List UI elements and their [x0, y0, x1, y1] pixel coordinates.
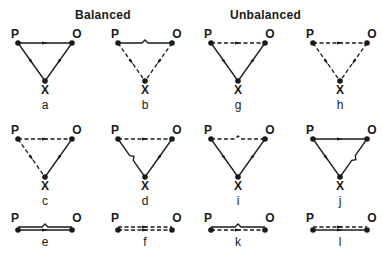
panel-label-f: f: [143, 235, 147, 249]
panel-g: POXg: [204, 27, 275, 112]
panel-b: POXb: [111, 27, 182, 112]
node-label-p: P: [11, 211, 19, 225]
node-label-o: O: [367, 123, 376, 137]
node-label-p: P: [306, 27, 314, 41]
panel-e: POe: [11, 211, 82, 249]
node-label-x: X: [41, 83, 49, 97]
node-label-x: X: [336, 179, 344, 193]
node-p: [115, 227, 121, 233]
node-label-p: P: [111, 27, 119, 41]
panel-l: POl: [306, 211, 377, 249]
node-label-x: X: [234, 179, 242, 193]
node-p: [310, 136, 316, 142]
node-label-x: X: [41, 179, 49, 193]
node-label-o: O: [265, 123, 274, 137]
panel-a: POXa: [11, 27, 82, 112]
edge-p-o: [211, 136, 265, 139]
node-label-o: O: [265, 211, 274, 225]
balance-diagram: POXaPOXbPOXgPOXhPOXcPOXdPOXiPOXjPOePOfPO…: [0, 0, 383, 258]
arrow-mark-icon: [142, 138, 148, 141]
node-label-p: P: [204, 211, 212, 225]
node-label-o: O: [265, 27, 274, 41]
arrow-mark-icon: [142, 226, 148, 229]
arrow-mark-icon: [235, 42, 241, 45]
node-o: [364, 40, 370, 46]
panel-label-k: k: [235, 235, 242, 249]
node-label-o: O: [367, 211, 376, 225]
node-label-p: P: [111, 123, 119, 137]
node-label-o: O: [367, 27, 376, 41]
node-label-p: P: [204, 27, 212, 41]
edge-upper: [18, 224, 72, 227]
node-label-o: O: [72, 27, 81, 41]
panel-i: POXi: [204, 123, 275, 208]
node-label-p: P: [11, 123, 19, 137]
node-p: [15, 227, 21, 233]
arrow-mark-icon: [337, 229, 343, 232]
node-o: [262, 227, 268, 233]
panel-label-j: j: [338, 194, 342, 208]
panel-label-e: e: [42, 235, 49, 249]
node-p: [208, 227, 214, 233]
panel-label-b: b: [142, 98, 149, 112]
node-p: [310, 40, 316, 46]
panel-k: POk: [204, 211, 275, 249]
node-p: [115, 136, 121, 142]
panel-f: POf: [111, 211, 182, 249]
node-o: [169, 136, 175, 142]
edge-p-o: [118, 40, 172, 43]
node-p: [208, 136, 214, 142]
arrow-mark-icon: [337, 138, 343, 141]
node-p: [115, 40, 121, 46]
panel-c: POXc: [11, 123, 82, 208]
node-label-o: O: [72, 123, 81, 137]
node-label-p: P: [204, 123, 212, 137]
node-o: [169, 227, 175, 233]
node-label-o: O: [172, 27, 181, 41]
node-label-p: P: [111, 211, 119, 225]
node-o: [364, 227, 370, 233]
panel-label-i: i: [237, 194, 240, 208]
node-o: [262, 136, 268, 142]
node-label-p: P: [11, 27, 19, 41]
node-label-x: X: [234, 83, 242, 97]
arrow-mark-icon: [337, 226, 343, 229]
node-p: [15, 136, 21, 142]
node-o: [364, 136, 370, 142]
node-label-o: O: [72, 211, 81, 225]
node-o: [169, 40, 175, 46]
node-label-o: O: [172, 211, 181, 225]
panel-h: POXh: [306, 27, 377, 112]
node-label-x: X: [336, 83, 344, 97]
edge-upper: [211, 224, 265, 227]
node-label-p: P: [306, 123, 314, 137]
panel-j: POXj: [306, 123, 377, 208]
node-label-o: O: [172, 123, 181, 137]
edge-o-x: [340, 139, 367, 177]
node-p: [15, 40, 21, 46]
node-label-x: X: [141, 179, 149, 193]
panel-label-c: c: [42, 194, 48, 208]
arrow-mark-icon: [42, 138, 48, 141]
node-label-p: P: [306, 211, 314, 225]
panel-label-l: l: [339, 235, 342, 249]
node-o: [69, 227, 75, 233]
arrow-mark-icon: [337, 42, 343, 45]
edge-p-x: [118, 139, 145, 177]
arrow-mark-icon: [42, 42, 48, 45]
node-p: [310, 227, 316, 233]
arrow-mark-icon: [142, 229, 148, 232]
panel-label-h: h: [337, 98, 344, 112]
arrow-mark-icon: [42, 229, 48, 232]
panel-label-d: d: [142, 194, 149, 208]
node-p: [208, 40, 214, 46]
panel-label-g: g: [235, 98, 242, 112]
panel-d: POXd: [111, 123, 182, 208]
node-o: [69, 40, 75, 46]
arrow-mark-icon: [235, 229, 241, 232]
panel-label-a: a: [42, 98, 49, 112]
node-o: [262, 40, 268, 46]
node-o: [69, 136, 75, 142]
node-label-x: X: [141, 83, 149, 97]
